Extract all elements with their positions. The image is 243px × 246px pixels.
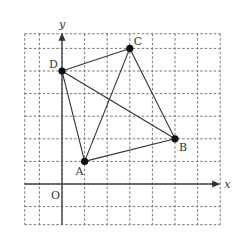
point-label-c: C	[134, 35, 142, 48]
origin-label: O	[51, 189, 60, 202]
points: ABCD	[49, 35, 187, 178]
x-axis-arrow-icon	[212, 181, 220, 188]
x-axis-label: x	[224, 178, 231, 191]
point-a	[81, 158, 88, 165]
point-label-a: A	[75, 165, 85, 178]
coordinate-diagram: x y O ABCD	[0, 0, 243, 246]
y-axis-label: y	[58, 18, 66, 31]
y-axis-arrow-icon	[59, 33, 66, 41]
segments	[62, 48, 175, 161]
segment-dc	[62, 48, 130, 71]
point-label-d: D	[49, 58, 58, 71]
point-label-b: B	[179, 141, 187, 154]
point-d	[58, 67, 65, 74]
point-b	[171, 135, 178, 142]
point-c	[126, 45, 133, 52]
